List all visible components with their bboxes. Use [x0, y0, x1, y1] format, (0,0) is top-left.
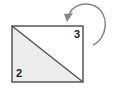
label-three: 3 — [74, 29, 80, 40]
label-two: 2 — [16, 68, 22, 79]
